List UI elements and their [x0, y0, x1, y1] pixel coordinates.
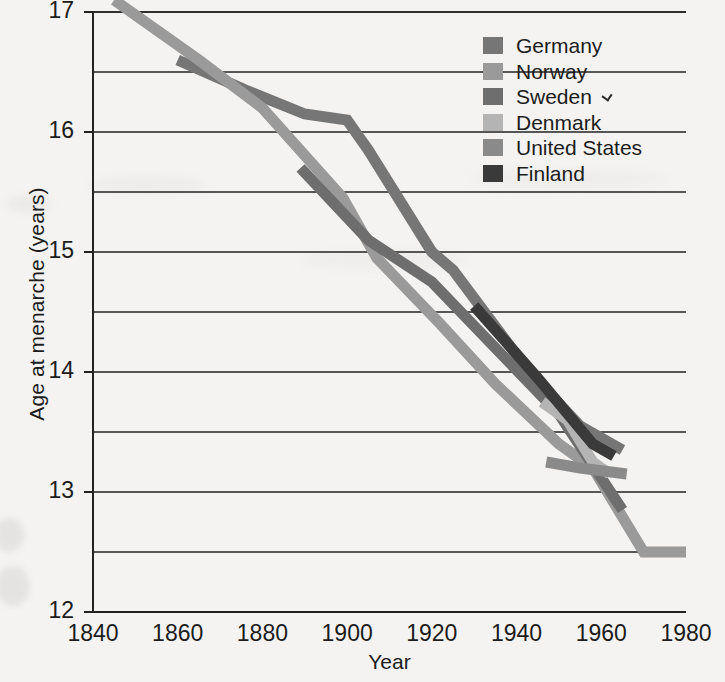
legend-swatch-icon [483, 139, 503, 156]
legend-item-united-states: United States [483, 135, 642, 161]
legend-swatch-icon [483, 114, 503, 131]
legend-label: Germany [516, 35, 602, 56]
legend-swatch-icon [483, 37, 503, 54]
legend-item-germany: Germany [483, 33, 642, 59]
axis-tickmarks [84, 12, 93, 612]
legend-label: Norway [516, 61, 587, 82]
legend-label: Finland [516, 163, 585, 184]
x-tick-label: 1980 [631, 620, 725, 647]
legend-swatch-icon [483, 88, 503, 105]
legend-item-finland: Finland [483, 161, 642, 187]
y-axis-title: Age at menarche (years) [25, 104, 49, 504]
legend-label: United States [516, 137, 642, 158]
series-line-united-states [546, 462, 626, 474]
legend-item-denmark: Denmark [483, 110, 642, 136]
chart-figure: 171615141312 184018601880190019201940196… [0, 0, 725, 682]
legend-label: Sweden [516, 86, 592, 107]
x-axis-title: Year [93, 650, 686, 674]
sweden-label-tail-artifact [603, 92, 610, 99]
legend: GermanyNorwaySwedenDenmarkUnited StatesF… [483, 33, 642, 186]
legend-label: Denmark [516, 112, 601, 133]
legend-item-norway: Norway [483, 59, 642, 85]
y-tick-label: 17 [18, 0, 74, 24]
legend-swatch-icon [483, 165, 503, 182]
legend-item-sweden: Sweden [483, 84, 642, 110]
legend-swatch-icon [483, 63, 503, 80]
